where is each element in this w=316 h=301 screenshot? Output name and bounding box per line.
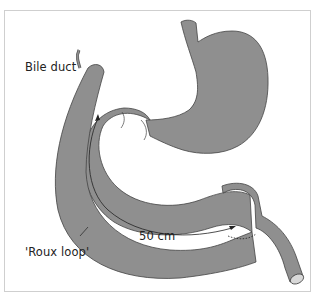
arrowhead-right [229,226,236,230]
fold-line [141,120,146,140]
roux-loop-label: 'Roux loop' [25,245,89,259]
fold-line [121,112,124,128]
arrowhead-top [95,114,100,121]
stomach [146,20,268,153]
bile-duct-label: Bile duct [25,60,76,74]
length-label: 50 cm [139,229,175,243]
